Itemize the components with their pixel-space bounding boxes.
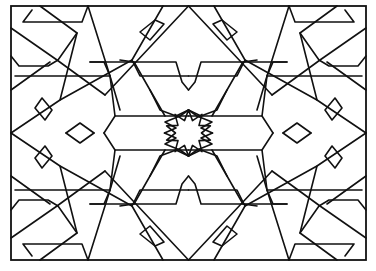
pattern-line-1 [23,6,88,22]
pattern-line-9 [11,6,163,133]
central-star [167,110,211,156]
pattern-line-16 [150,90,165,116]
pattern-line-15 [104,116,115,133]
pattern-quadrant-mirror-x [189,6,367,133]
frame-border [11,6,366,260]
star-pattern-drawing [0,0,376,271]
pattern-line-0 [11,6,77,66]
pattern-line-7 [35,98,52,120]
pattern-quadrant-mirror-xy [189,133,367,260]
pattern-line-10 [105,6,189,95]
pattern-line-14 [110,76,189,116]
pattern-quadrant-mirror-y [11,133,189,260]
pattern-line-5 [60,33,77,100]
pattern-quadrant [11,6,189,133]
pattern-line-8 [66,123,94,133]
